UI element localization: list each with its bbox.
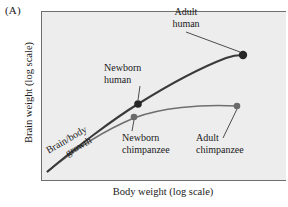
adult-human-leader-line bbox=[186, 32, 240, 52]
annotation-adult-human: Adult human bbox=[160, 6, 212, 29]
annotation-newborn-chimpanzee-line1: Newborn bbox=[122, 132, 170, 144]
marker-adult-human bbox=[239, 51, 247, 59]
annotation-newborn-human-line1: Newborn bbox=[104, 62, 141, 74]
annotation-newborn-human: Newborn human bbox=[104, 62, 141, 85]
newborn-human-leader-line bbox=[138, 86, 140, 100]
annotation-newborn-chimpanzee: Newborn chimpanzee bbox=[122, 132, 170, 155]
annotation-newborn-human-line2: human bbox=[104, 74, 141, 86]
annotation-adult-chimpanzee-line1: Adult bbox=[196, 132, 244, 144]
marker-newborn-human bbox=[134, 100, 142, 108]
marker-adult-chimpanzee bbox=[234, 103, 241, 110]
annotation-adult-chimpanzee-line2: chimpanzee bbox=[196, 144, 244, 156]
newborn-chimpanzee-leader-line bbox=[132, 120, 134, 131]
annotation-adult-human-line1: Adult bbox=[160, 6, 212, 18]
annotation-adult-human-line2: human bbox=[160, 18, 212, 30]
marker-newborn-chimpanzee bbox=[131, 114, 138, 121]
figure-panel-a: (A) Brain weight (log scale) Body weight… bbox=[0, 0, 288, 207]
annotation-newborn-chimpanzee-line2: chimpanzee bbox=[122, 144, 170, 156]
chart-curves-layer bbox=[0, 0, 288, 207]
annotation-adult-chimpanzee: Adult chimpanzee bbox=[196, 132, 244, 155]
